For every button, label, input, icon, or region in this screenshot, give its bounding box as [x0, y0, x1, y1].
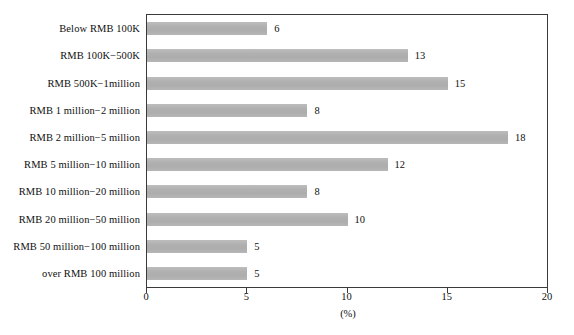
category-label: RMB 50 million−100 million	[0, 240, 140, 253]
bar-value-label: 12	[395, 158, 406, 171]
category-label: RMB 100K−500K	[0, 49, 140, 62]
bar	[147, 240, 247, 253]
category-label: RMB 20 million−50 million	[0, 213, 140, 226]
bar	[147, 185, 307, 198]
category-label: Below RMB 100K	[0, 22, 140, 35]
category-label: RMB 2 million−5 million	[0, 131, 140, 144]
category-axis-labels: Below RMB 100KRMB 100K−500KRMB 500K−1mil…	[0, 14, 143, 288]
x-tick-label: 15	[427, 290, 467, 303]
bar	[147, 267, 247, 280]
bar	[147, 77, 448, 90]
category-label: RMB 1 million−2 million	[0, 104, 140, 117]
category-label: RMB 500K−1million	[0, 77, 140, 90]
bar-value-label: 6	[274, 22, 279, 35]
category-label: RMB 10 million−20 million	[0, 185, 140, 198]
bar-value-label: 5	[254, 267, 259, 280]
x-tick-label: 5	[226, 290, 266, 303]
bar	[147, 213, 348, 226]
bar	[147, 131, 508, 144]
bar-value-label: 15	[455, 77, 466, 90]
bars-layer: 613158181281055	[147, 15, 548, 287]
bar-value-label: 10	[355, 213, 366, 226]
bar-value-label: 8	[314, 104, 319, 117]
horizontal-bar-chart: Below RMB 100KRMB 100K−500KRMB 500K−1mil…	[0, 0, 574, 335]
category-label: over RMB 100 million	[0, 267, 140, 280]
bar	[147, 158, 388, 171]
x-tick-label: 0	[126, 290, 166, 303]
bar-value-label: 8	[314, 185, 319, 198]
x-axis-title: (%)	[147, 307, 549, 320]
bar	[147, 49, 408, 62]
x-tick-label: 10	[327, 290, 367, 303]
bar-value-label: 13	[415, 49, 426, 62]
bar-value-label: 18	[515, 131, 526, 144]
category-label: RMB 5 million−10 million	[0, 158, 140, 171]
bar	[147, 104, 307, 117]
bar-value-label: 5	[254, 240, 259, 253]
bar	[147, 22, 267, 35]
x-tick-label: 20	[527, 290, 567, 303]
